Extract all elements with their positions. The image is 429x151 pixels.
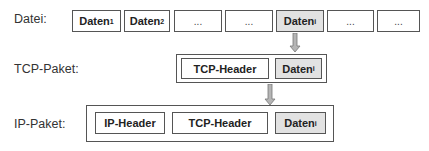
tcp-data-text: Daten <box>282 63 313 75</box>
file-block-1-sub: 1 <box>110 18 114 25</box>
file-block-1: Daten1 <box>72 10 121 32</box>
file-block-1-text: Daten <box>79 15 110 27</box>
down-arrow-icon <box>289 33 301 53</box>
tcp-data-sub: i <box>313 65 315 72</box>
ip-tcp-header-block: TCP-Header <box>172 112 268 134</box>
ip-data-block: Dateni <box>275 112 326 134</box>
file-block-ellipsis-2: ... <box>225 10 273 32</box>
ip-data-text: Daten <box>284 117 315 129</box>
ip-tcp-header-text: TCP-Header <box>189 117 252 129</box>
tcp-header-block: TCP-Header <box>181 58 269 79</box>
file-block-ellipsis-4: ... <box>377 10 420 32</box>
file-block-2-text: Daten <box>130 15 161 27</box>
file-block-ellipsis-3: ... <box>327 10 374 32</box>
ip-header-block: IP-Header <box>95 112 165 134</box>
file-block-i-sub: i <box>314 18 316 25</box>
tcp-header-text: TCP-Header <box>194 63 257 75</box>
ip-paket-label: IP-Paket: <box>14 117 65 131</box>
file-block-2: Daten2 <box>124 10 170 32</box>
file-block-2-sub: 2 <box>160 18 164 25</box>
ellipsis-text: ... <box>394 16 402 27</box>
file-block-i-text: Daten <box>284 15 315 27</box>
file-block-ellipsis-1: ... <box>174 10 222 32</box>
datei-label: Datei: <box>14 12 47 26</box>
ellipsis-text: ... <box>346 16 354 27</box>
ip-header-text: IP-Header <box>104 117 155 129</box>
ellipsis-text: ... <box>245 16 253 27</box>
ellipsis-text: ... <box>194 16 202 27</box>
file-block-i: Dateni <box>276 10 324 32</box>
tcp-paket-label: TCP-Paket: <box>14 62 79 76</box>
down-arrow-icon <box>264 84 276 106</box>
tcp-data-block: Dateni <box>275 58 322 79</box>
ip-data-sub: i <box>315 120 317 127</box>
